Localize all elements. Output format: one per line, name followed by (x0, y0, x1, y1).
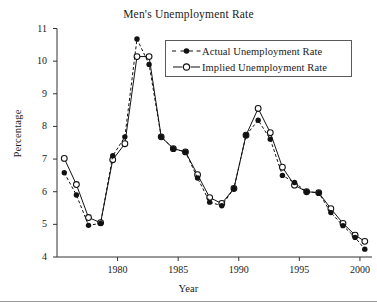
series-implied (61, 54, 367, 245)
data-point-filled (243, 133, 248, 138)
data-point-filled (219, 203, 224, 208)
data-point-filled (292, 180, 297, 185)
data-point-filled (62, 170, 67, 175)
legend-label-implied: Implied Unemployment Rate (202, 62, 327, 73)
data-point-filled (255, 118, 260, 123)
data-point-open (122, 141, 128, 147)
y-tick-label: 10 (25, 56, 47, 66)
data-point-open (146, 54, 152, 60)
x-tick-label: 1985 (158, 265, 198, 275)
footer-divider (0, 301, 377, 302)
y-tick-label: 7 (25, 154, 47, 164)
data-point-filled (328, 210, 333, 215)
legend-marker-open-circle-icon (171, 60, 202, 74)
series-line (64, 57, 365, 242)
data-point-open (267, 130, 273, 136)
data-point-open (362, 238, 368, 244)
data-point-filled (134, 36, 139, 41)
chart-legend: Actual Unemployment Rate Implied Unemplo… (165, 40, 352, 77)
data-point-filled (195, 175, 200, 180)
data-point-open (73, 182, 79, 188)
data-point-filled (268, 136, 273, 141)
data-point-filled (207, 199, 212, 204)
data-point-filled (362, 246, 367, 251)
data-point-filled (280, 173, 285, 178)
y-tick-label: 11 (25, 24, 47, 34)
data-point-filled (171, 146, 176, 151)
data-point-filled (110, 153, 115, 158)
data-point-filled (146, 62, 151, 67)
x-tick-label: 1995 (279, 265, 319, 275)
data-point-filled (159, 134, 164, 139)
data-point-open (61, 156, 67, 162)
x-tick-label: 1990 (219, 265, 259, 275)
data-point-filled (304, 189, 309, 194)
data-point-filled (231, 186, 236, 191)
legend-label-actual: Actual Unemployment Rate (202, 46, 322, 57)
x-axis-label: Year (0, 283, 377, 294)
y-tick-label: 6 (25, 187, 47, 197)
y-tick-label: 4 (25, 252, 47, 262)
data-point-filled (340, 223, 345, 228)
legend-entry-implied: Implied Unemployment Rate (171, 59, 327, 75)
x-tick-label: 1980 (98, 265, 138, 275)
data-point-filled (74, 192, 79, 197)
data-point-filled (183, 149, 188, 154)
data-point-open (255, 106, 261, 112)
legend-marker-filled-circle-icon (171, 44, 202, 58)
data-point-filled (352, 235, 357, 240)
legend-entry-actual: Actual Unemployment Rate (171, 43, 322, 59)
chart-figure: Men's Unemployment Rate Percentage 45678… (0, 0, 377, 308)
y-tick-label: 9 (25, 89, 47, 99)
data-point-filled (316, 190, 321, 195)
data-point-open (86, 215, 92, 221)
data-point-filled (86, 223, 91, 228)
data-point-filled (122, 134, 127, 139)
data-point-filled (98, 221, 103, 226)
y-tick-label: 8 (25, 121, 47, 131)
x-tick-label: 2000 (340, 265, 377, 275)
y-tick-label: 5 (25, 219, 47, 229)
